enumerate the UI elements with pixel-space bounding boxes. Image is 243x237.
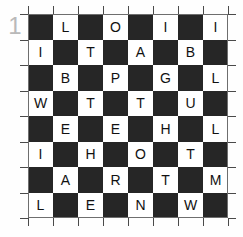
grid-tick-bottom [103,218,104,226]
cell-letter: L [212,70,220,84]
grid-cell[interactable] [178,65,203,91]
grid-tick-right [228,167,236,168]
grid-cell[interactable]: T [128,91,153,117]
cell-letter: T [86,45,95,59]
grid-cell[interactable] [28,65,53,91]
grid-cell[interactable]: N [128,193,153,219]
grid-cell[interactable]: I [28,142,53,168]
grid-cell[interactable] [103,142,128,168]
grid-cell[interactable]: W [28,91,53,117]
grid-cell[interactable]: E [78,193,103,219]
grid-cell[interactable]: T [178,142,203,168]
cell-letter: G [160,70,171,84]
grid-cell[interactable]: P [103,65,128,91]
grid-cell[interactable] [203,40,228,66]
grid-cell[interactable]: L [203,116,228,142]
puzzle-container: 1 LOIIITABBPGLWTTUEEHLIHOTARTMLENW [0,0,243,237]
grid-tick-right [228,116,236,117]
grid-cell[interactable]: I [153,14,178,40]
grid-cell[interactable] [153,91,178,117]
cell-letter: I [39,45,43,59]
grid-tick-top [228,6,229,14]
grid-cell[interactable]: H [78,142,103,168]
cell-letter: R [110,172,120,186]
grid-cell[interactable]: R [103,167,128,193]
grid-tick-top [203,6,204,14]
grid-cell[interactable] [103,91,128,117]
grid-cell[interactable]: E [53,116,78,142]
grid-cell[interactable]: H [153,116,178,142]
grid-cell[interactable] [153,142,178,168]
grid-cell[interactable] [78,65,103,91]
cell-letter: T [136,96,145,110]
grid-cell[interactable]: A [128,40,153,66]
cell-letter: T [186,147,195,161]
grid-cell[interactable]: I [203,14,228,40]
grid-cell[interactable] [103,193,128,219]
grid-cell[interactable] [153,40,178,66]
cell-letter: I [164,19,168,33]
cell-letter: W [184,198,197,212]
grid-tick-top [153,6,154,14]
grid-cell[interactable]: T [78,40,103,66]
grid-tick-bottom [228,218,229,226]
grid-cell[interactable] [53,193,78,219]
cell-letter: P [111,70,120,84]
grid-cell[interactable] [203,142,228,168]
grid-tick-bottom [78,218,79,226]
grid-cell[interactable]: G [153,65,178,91]
cell-letter: E [86,198,95,212]
grid-tick-right [228,218,236,219]
grid-cell[interactable] [53,40,78,66]
puzzle-index-label: 1 [4,11,26,41]
grid-cell[interactable]: E [103,116,128,142]
cell-letter: E [111,121,120,135]
grid-cell[interactable]: T [78,91,103,117]
grid-cell[interactable]: L [203,65,228,91]
grid-cell[interactable]: U [178,91,203,117]
grid-cell[interactable] [103,40,128,66]
grid-cell[interactable] [153,193,178,219]
grid-cell[interactable]: L [28,193,53,219]
grid-cell[interactable] [78,167,103,193]
grid-cell[interactable] [203,193,228,219]
cell-letter: T [86,96,95,110]
grid-cell[interactable] [203,91,228,117]
grid-cell[interactable] [128,14,153,40]
grid-tick-top [103,6,104,14]
grid-cell[interactable] [178,167,203,193]
grid-cell[interactable]: M [203,167,228,193]
cell-letter: U [185,96,195,110]
grid-cell[interactable] [128,116,153,142]
grid-cell[interactable] [28,14,53,40]
grid-cell[interactable]: L [53,14,78,40]
grid-cell[interactable] [178,14,203,40]
grid-cell[interactable] [28,167,53,193]
grid-cell[interactable]: O [103,14,128,40]
grid-cell[interactable]: I [28,40,53,66]
grid-cell[interactable]: B [178,40,203,66]
grid-cell[interactable]: O [128,142,153,168]
grid-cell[interactable] [178,116,203,142]
grid-cell[interactable]: B [53,65,78,91]
grid-tick-left [20,193,28,194]
grid-cell[interactable]: W [178,193,203,219]
grid-cell[interactable] [53,91,78,117]
grid-cell[interactable] [78,14,103,40]
grid-cell[interactable] [53,142,78,168]
grid-cell[interactable] [128,167,153,193]
letter-grid[interactable]: LOIIITABBPGLWTTUEEHLIHOTARTMLENW [28,14,228,218]
cell-letter: E [61,121,70,135]
cell-letter: N [135,198,145,212]
cell-letter: W [34,96,47,110]
grid-tick-bottom [28,218,29,226]
grid-cell[interactable]: A [53,167,78,193]
cell-letter: O [110,19,121,33]
grid-cell[interactable]: T [153,167,178,193]
grid-tick-left [20,218,28,219]
grid-tick-top [78,6,79,14]
grid-cell[interactable] [78,116,103,142]
grid-cell[interactable] [28,116,53,142]
grid-cell[interactable] [128,65,153,91]
grid-tick-right [228,65,236,66]
